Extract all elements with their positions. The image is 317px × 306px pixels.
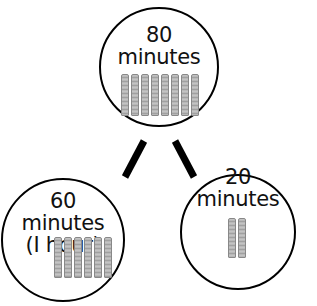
ten-rod — [104, 237, 112, 278]
six-rods — [54, 237, 112, 278]
ten-rod — [94, 237, 102, 278]
whole-unit: minutes — [99, 47, 219, 68]
connector-right — [175, 141, 194, 177]
ten-rod — [181, 74, 189, 116]
ten-rod — [228, 218, 236, 258]
ten-rod — [191, 74, 199, 116]
ten-rod — [64, 237, 72, 278]
ten-rod — [171, 74, 179, 116]
ten-rod — [84, 237, 92, 278]
ten-rod — [121, 74, 129, 116]
ten-rod — [74, 237, 82, 278]
part-right-unit: minutes — [183, 189, 293, 210]
ten-rod — [161, 74, 169, 116]
ten-rod — [238, 218, 246, 258]
part-right-ten-rods — [228, 218, 246, 258]
part-right-value: 20 — [198, 167, 278, 188]
ten-rod — [131, 74, 139, 116]
part-left-unit: minutes — [8, 213, 118, 234]
ten-rod — [54, 237, 62, 278]
whole-value: 80 — [109, 25, 209, 46]
whole-ten-rods — [121, 74, 199, 116]
part-left-value: 60 — [23, 191, 103, 212]
connector-left — [125, 141, 144, 177]
ten-rod — [151, 74, 159, 116]
ten-rod — [141, 74, 149, 116]
